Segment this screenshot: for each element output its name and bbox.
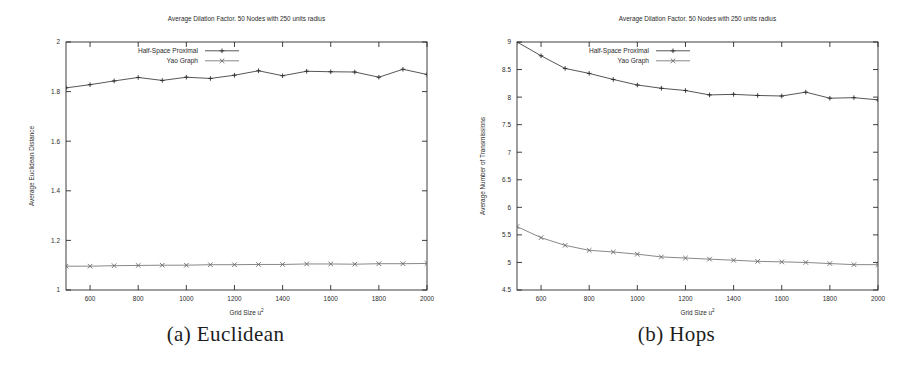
y-axis-label: Average Euclidean Distance: [28, 125, 36, 206]
x-tick-label: 1400: [726, 295, 741, 302]
series-line: [66, 69, 427, 88]
y-tick-label: 4.5: [502, 286, 511, 293]
x-tick-label: 1200: [227, 295, 242, 302]
legend-marker-sample: [220, 49, 225, 54]
series-line: [66, 263, 427, 266]
x-tick-label: 800: [133, 295, 144, 302]
panel-hops: Average Dilation Factor. 50 Nodes with 2…: [451, 0, 902, 367]
x-axis-label-superscript: 2: [712, 308, 715, 313]
plot-frame: [66, 42, 427, 290]
legend-marker-sample: [671, 49, 676, 54]
y-tick-label: 6: [507, 204, 511, 211]
caption-euclidean: (a) Euclidean: [0, 322, 451, 347]
y-tick-label: 1.2: [51, 237, 60, 244]
chart-title: Average Dilation Factor. 50 Nodes with 2…: [619, 15, 776, 23]
y-tick-label: 2: [56, 38, 60, 45]
panel-euclidean: Average Dilation Factor. 50 Nodes with 2…: [0, 0, 451, 367]
x-axis-label: Grid Size u2: [680, 308, 715, 316]
series-line: [517, 227, 878, 265]
y-tick-label: 1.6: [51, 138, 60, 145]
x-axis-label: Grid Size u2: [229, 308, 264, 316]
x-tick-label: 1600: [775, 295, 790, 302]
x-tick-label: 2000: [871, 295, 886, 302]
y-tick-label: 7: [507, 149, 511, 156]
y-tick-label: 1.8: [51, 88, 60, 95]
legend-label-yao-graph: Yao Graph: [618, 57, 650, 65]
figure-two-panel-plot: Average Dilation Factor. 50 Nodes with 2…: [0, 0, 902, 367]
x-tick-label: 1600: [324, 295, 339, 302]
y-tick-label: 1: [56, 286, 60, 293]
series-yao-graph: [515, 224, 881, 267]
chart-euclidean: Average Dilation Factor. 50 Nodes with 2…: [0, 0, 451, 322]
legend-label-half-space-proximal: Half-Space Proximal: [589, 47, 650, 55]
x-axis-label-superscript: 2: [261, 308, 264, 313]
chart-hops: Average Dilation Factor. 50 Nodes with 2…: [451, 0, 902, 322]
series-yao-graph: [64, 261, 430, 268]
y-tick-label: 5: [507, 259, 511, 266]
y-tick-label: 8: [507, 94, 511, 101]
x-tick-label: 1800: [823, 295, 838, 302]
x-tick-label: 1000: [179, 295, 194, 302]
x-tick-label: 600: [85, 295, 96, 302]
x-tick-label: 1400: [275, 295, 290, 302]
series-half-space-proximal: [64, 67, 430, 90]
x-tick-label: 800: [584, 295, 595, 302]
y-axis-label: Average Number of Transmissions: [479, 117, 487, 215]
y-tick-label: 1.4: [51, 187, 60, 194]
x-tick-label: 1200: [678, 295, 693, 302]
y-tick-label: 6.5: [502, 176, 511, 183]
y-tick-label: 7.5: [502, 121, 511, 128]
legend-label-yao-graph: Yao Graph: [167, 57, 199, 65]
x-tick-label: 1000: [630, 295, 645, 302]
plot-frame: [517, 42, 878, 290]
y-tick-label: 8.5: [502, 66, 511, 73]
x-tick-label: 1800: [372, 295, 387, 302]
y-tick-label: 9: [507, 38, 511, 45]
y-tick-label: 5.5: [502, 231, 511, 238]
caption-hops: (b) Hops: [451, 322, 902, 347]
x-tick-label: 600: [536, 295, 547, 302]
chart-title: Average Dilation Factor. 50 Nodes with 2…: [168, 15, 325, 23]
legend-label-half-space-proximal: Half-Space Proximal: [138, 47, 199, 55]
series-line: [517, 42, 878, 100]
x-tick-label: 2000: [420, 295, 435, 302]
series-half-space-proximal: [515, 40, 881, 102]
